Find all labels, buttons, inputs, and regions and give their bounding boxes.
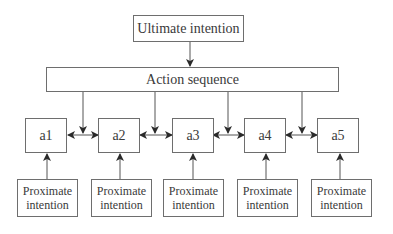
action-label: a1: [39, 128, 52, 144]
action-box-a4: a4: [244, 118, 286, 153]
action-label: a5: [331, 128, 344, 144]
proximate-intention-box-5: Proximateintention: [311, 179, 372, 217]
proximate-line2: intention: [26, 198, 69, 212]
proximate-line2: intention: [246, 198, 289, 212]
action-label: a2: [112, 128, 125, 144]
proximate-intention-box-3: Proximateintention: [163, 179, 224, 217]
proximate-line1: Proximate: [317, 184, 366, 198]
proximate-line1: Proximate: [243, 184, 292, 198]
proximate-intention-box-4: Proximateintention: [237, 179, 298, 217]
ultimate-intention-label: Ultimate intention: [137, 21, 239, 37]
proximate-intention-box-2: Proximateintention: [91, 179, 152, 217]
proximate-intention-box-1: Proximateintention: [17, 179, 78, 217]
action-sequence-box: Action sequence: [46, 67, 339, 92]
action-box-a1: a1: [25, 118, 67, 153]
proximate-line2: intention: [320, 198, 363, 212]
proximate-line1: Proximate: [23, 184, 72, 198]
proximate-line1: Proximate: [169, 184, 218, 198]
proximate-line2: intention: [172, 198, 215, 212]
action-box-a2: a2: [98, 118, 140, 153]
action-box-a3: a3: [172, 118, 214, 153]
proximate-line2: intention: [100, 198, 143, 212]
action-label: a3: [186, 128, 199, 144]
ultimate-intention-box: Ultimate intention: [133, 15, 244, 42]
proximate-line1: Proximate: [97, 184, 146, 198]
action-box-a5: a5: [317, 118, 359, 153]
action-label: a4: [258, 128, 271, 144]
action-sequence-label: Action sequence: [146, 72, 239, 88]
